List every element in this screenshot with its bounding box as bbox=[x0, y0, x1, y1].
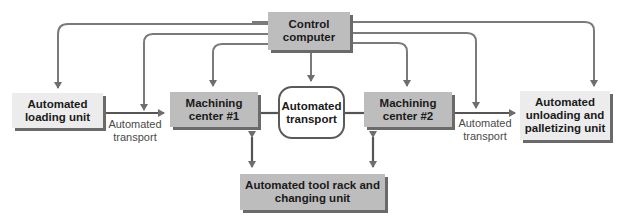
node-label: center #2 bbox=[383, 110, 434, 123]
node-label: loading unit bbox=[25, 111, 90, 124]
loading-unit-node: Automated loading unit bbox=[12, 93, 103, 128]
node-label: center #1 bbox=[189, 110, 240, 123]
node-label: Control bbox=[289, 18, 330, 31]
fms-diagram: Control computer Automated loading unit … bbox=[0, 0, 623, 224]
node-label: Automated bbox=[281, 100, 341, 113]
left-transport-label: Automated transport bbox=[105, 118, 165, 144]
machining-center-2-node: Machining center #2 bbox=[364, 92, 452, 127]
node-label: computer bbox=[283, 31, 335, 44]
edge-label: Automated bbox=[105, 118, 165, 131]
node-label: changing unit bbox=[275, 192, 350, 205]
node-label: palletizing unit bbox=[525, 122, 606, 135]
node-label: Machining bbox=[186, 97, 243, 110]
node-label: Automated bbox=[27, 98, 87, 111]
node-label: transport bbox=[286, 113, 336, 126]
node-label: Automated tool rack and bbox=[245, 179, 380, 192]
edge-label: Automated bbox=[455, 117, 515, 130]
node-label: Machining bbox=[380, 97, 437, 110]
machining-center-1-node: Machining center #1 bbox=[170, 92, 258, 127]
automated-transport-loop-node: Automated transport bbox=[278, 86, 345, 139]
edge-label: transport bbox=[455, 130, 515, 143]
right-transport-label: Automated transport bbox=[455, 117, 515, 143]
control-computer-node: Control computer bbox=[268, 12, 350, 50]
node-label: unloading and bbox=[526, 109, 605, 122]
edge-label: transport bbox=[105, 131, 165, 144]
tool-rack-node: Automated tool rack and changing unit bbox=[240, 174, 385, 210]
unloading-palletizing-unit-node: Automated unloading and palletizing unit bbox=[520, 91, 610, 140]
node-label: Automated bbox=[535, 96, 595, 109]
